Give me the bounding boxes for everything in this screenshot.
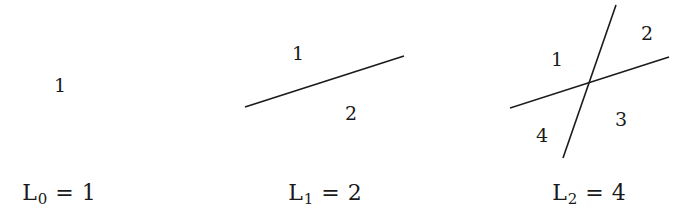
equation-L1: L1=2 xyxy=(288,182,362,207)
region-label: 1 xyxy=(551,50,563,69)
equation-L2: L2=4 xyxy=(552,182,626,207)
equation-L0: L0=1 xyxy=(22,182,96,207)
region-label: 2 xyxy=(345,104,357,123)
equation-symbol: L xyxy=(288,180,303,205)
equation-value: 4 xyxy=(612,180,626,205)
equation-subscript: 1 xyxy=(304,190,314,208)
equation-operator: = xyxy=(585,180,603,205)
equation-value: 2 xyxy=(348,180,362,205)
equation-operator: = xyxy=(321,180,339,205)
region-label: 1 xyxy=(54,76,66,95)
equation-value: 1 xyxy=(82,180,96,205)
equation-subscript: 2 xyxy=(568,190,578,208)
region-label: 3 xyxy=(615,110,627,129)
equation-operator: = xyxy=(55,180,73,205)
equation-symbol: L xyxy=(552,180,567,205)
region-label: 4 xyxy=(536,126,548,145)
line-L1-1 xyxy=(245,56,404,107)
equation-subscript: 0 xyxy=(38,190,48,208)
line-L2-2 xyxy=(563,5,616,158)
region-label: 2 xyxy=(641,24,653,43)
region-label: 1 xyxy=(292,44,304,63)
equation-symbol: L xyxy=(22,180,37,205)
